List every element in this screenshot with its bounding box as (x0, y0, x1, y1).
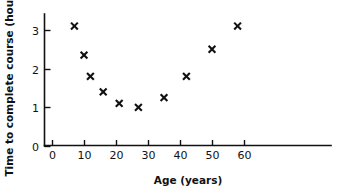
data-point (87, 73, 94, 80)
x-tick-label-40: 40 (174, 149, 188, 162)
x-tick-label-20: 20 (110, 149, 124, 162)
data-point (234, 23, 241, 30)
data-point (116, 100, 123, 107)
data-point-series (71, 23, 241, 111)
x-axis-group: 0102030405060 (45, 140, 332, 162)
y-tick-label-0: 0 (32, 141, 39, 154)
y-axis-title: Time to complete course (hours) (3, 0, 15, 177)
y-axis-ticks (45, 31, 51, 147)
data-point (100, 88, 107, 95)
y-tick-label-2: 2 (32, 64, 39, 77)
y-tick-label-3: 3 (32, 25, 39, 38)
x-axis-tick-labels: 0102030405060 (49, 149, 252, 162)
data-point (135, 104, 142, 111)
data-point (183, 73, 190, 80)
y-tick-label-1: 1 (32, 102, 39, 115)
plot-canvas: 0123 0102030405060 Age (years) Time to c… (0, 0, 345, 191)
x-tick-label-0: 0 (49, 149, 56, 162)
x-tick-label-30: 30 (142, 149, 156, 162)
data-point (209, 46, 216, 53)
x-tick-label-60: 60 (238, 149, 252, 162)
x-axis-title: Age (years) (154, 174, 223, 186)
data-point (71, 23, 78, 30)
x-tick-label-50: 50 (206, 149, 220, 162)
data-point (161, 94, 168, 101)
y-axis-tick-labels: 0123 (32, 25, 39, 154)
y-axis-group: 0123 (32, 14, 51, 154)
x-tick-label-10: 10 (78, 149, 92, 162)
data-point (81, 52, 88, 59)
scatter-plot-figure: 0123 0102030405060 Age (years) Time to c… (0, 0, 345, 191)
